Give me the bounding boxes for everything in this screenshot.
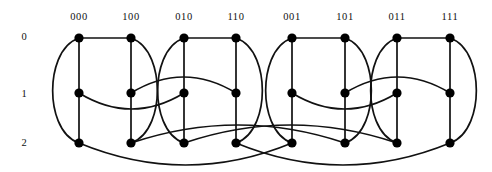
graph-node[interactable] bbox=[340, 33, 349, 42]
graph-node[interactable] bbox=[74, 138, 83, 147]
graph-node[interactable] bbox=[231, 88, 240, 97]
graph-node[interactable] bbox=[287, 88, 296, 97]
block-left-return-arc bbox=[371, 38, 397, 143]
graph-node[interactable] bbox=[340, 88, 349, 97]
column-label-110: 110 bbox=[227, 11, 244, 22]
row-label-0: 0 bbox=[21, 31, 26, 42]
graph-node[interactable] bbox=[392, 33, 401, 42]
column-label-010: 010 bbox=[175, 11, 193, 22]
butterfly-network-figure: 000100010110001101011111 012 bbox=[0, 0, 492, 172]
graph-node[interactable] bbox=[179, 33, 188, 42]
network-graph-canvas bbox=[0, 0, 492, 172]
graph-node[interactable] bbox=[445, 33, 454, 42]
column-label-001: 001 bbox=[283, 11, 301, 22]
graph-node[interactable] bbox=[231, 138, 240, 147]
graph-node[interactable] bbox=[126, 138, 135, 147]
graph-node[interactable] bbox=[287, 33, 296, 42]
block-left-return-arc bbox=[158, 38, 184, 143]
row-label-2: 2 bbox=[21, 137, 26, 148]
column-label-101: 101 bbox=[336, 11, 354, 22]
graph-node[interactable] bbox=[126, 33, 135, 42]
block-right-return-arc bbox=[450, 38, 476, 143]
graph-node[interactable] bbox=[340, 138, 349, 147]
graph-node[interactable] bbox=[445, 138, 454, 147]
graph-node[interactable] bbox=[231, 33, 240, 42]
graph-node[interactable] bbox=[74, 88, 83, 97]
column-label-100: 100 bbox=[122, 11, 140, 22]
graph-node[interactable] bbox=[179, 88, 188, 97]
graph-node[interactable] bbox=[392, 138, 401, 147]
row-label-1: 1 bbox=[21, 88, 26, 99]
graph-node[interactable] bbox=[179, 138, 188, 147]
graph-node[interactable] bbox=[392, 88, 401, 97]
graph-node[interactable] bbox=[287, 138, 296, 147]
graph-node[interactable] bbox=[74, 33, 83, 42]
column-label-111: 111 bbox=[442, 11, 459, 22]
graph-node[interactable] bbox=[126, 88, 135, 97]
column-label-011: 011 bbox=[388, 11, 405, 22]
graph-node[interactable] bbox=[445, 88, 454, 97]
column-label-000: 000 bbox=[70, 11, 88, 22]
block-left-return-arc bbox=[53, 38, 79, 143]
